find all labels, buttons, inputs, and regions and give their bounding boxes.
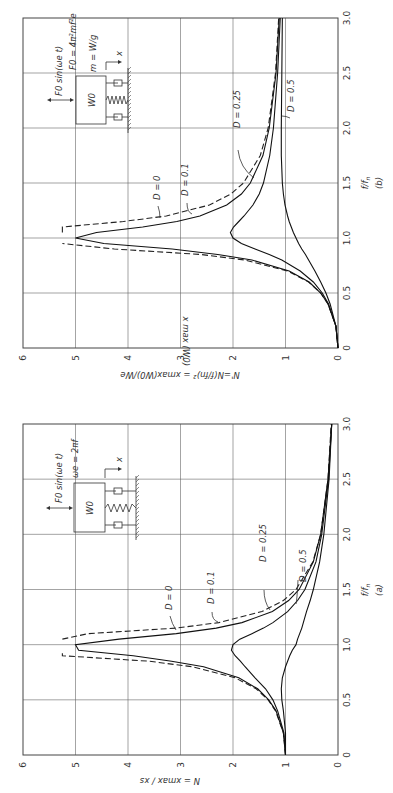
x-tick-label: 2.5 [342,66,352,80]
x-tick-label: 2.5 [342,472,352,486]
annotation-b-d025: D = 0.25 [232,90,242,128]
y-axis-label-a: N = xmax / xs [139,776,200,786]
y-tick-label: 5 [71,762,81,768]
force-equation-b: F0 = 4π²mf²e [68,13,78,70]
x-tick-label: 0 [342,752,352,758]
force-equation-a: ωe = 2πf [70,438,80,478]
chart-panel-a: 012345600.51.01.52.02.53.0 f/fn (a) N = … [18,417,384,786]
y-tick-label: 2 [228,355,238,361]
panel-label-b: (b) [374,177,384,189]
x-tick-label: 1.5 [342,176,352,190]
annotation-a-d025: D = 0.25 [258,524,268,562]
annotation-b-d01: D = 0.1 [180,163,190,196]
series-d0 [62,244,338,349]
x-axis-label-b: f/fn [360,176,371,189]
ground-hatch-a [136,475,139,538]
x-tick-label: 1.0 [342,637,352,652]
y-tick-label: 6 [18,355,28,361]
x-axis-label-a: f/fn [360,583,371,596]
displacement-label-b: x [114,50,124,57]
y-axis-label-b-text: N'=N(f/fn)² = xmax(W0)/We [120,370,239,380]
x-tick-label: 0 [342,345,352,351]
chart-panel-b: 012345600.51.01.52.02.53.0 f/fn (b) x ma… [18,11,384,380]
annotation-a-d0: D = 0 [164,586,174,610]
y-tick-label: 6 [18,762,28,768]
y-tick-label: 2 [228,762,238,768]
y-tick-label: 5 [71,355,81,361]
series-d0 [62,650,285,755]
mass-label-b: W0 [87,93,97,107]
y-tick-label: 0 [333,355,343,361]
y-tick-label: 1 [281,762,291,768]
x-tick-label: 3.0 [342,417,352,432]
x-tick-label: 0.5 [342,286,352,300]
force-label-b: F0 sin(ωe t) [54,46,64,96]
y-tick-label: 4 [123,762,133,768]
y-tick-label: 0 [333,762,343,768]
x-tick-label: 0.5 [342,693,352,707]
annotation-a-d05: D = 0.5 [298,549,308,582]
y-axis-label-b: x max (W0) [181,316,191,366]
tick-labels-a: 012345600.51.01.52.02.53.0 [18,417,352,768]
annotations-a: D = 0 D = 0.1 D = 0.25 D = 0.5 [164,524,308,630]
mass-equation-b: m = W/g [88,34,98,72]
y-tick-label: 1 [281,355,291,361]
spring-icon-a [105,504,136,512]
x-tick-label: 2.0 [342,121,352,136]
annotation-b-d0: D = 0 [152,176,162,200]
mass-label-a: W0 [85,501,95,515]
series-d0 [62,424,331,639]
ground-hatch-b [128,67,131,130]
x-tick-label: 1.0 [342,231,352,246]
spring-icon-b [106,96,128,104]
panel-label-a: (a) [374,584,384,596]
x-tick-label: 3.0 [342,11,352,26]
figure-canvas: 012345600.51.01.52.02.53.0 f/fn (b) x ma… [0,0,393,793]
spring-mass-diagram-a: W0 x F0 sin(ωe t) ωe = 2πf [46,438,139,540]
x-tick-label: 1.5 [342,582,352,596]
annotation-b-d05: D = 0.5 [286,79,296,112]
displacement-label-a: x [114,456,124,463]
y-tick-label: 3 [176,762,186,768]
svg-text:x max (W0): x max (W0) [181,316,191,366]
annotation-a-d01: D = 0.1 [206,571,216,604]
x-tick-label: 2.0 [342,527,352,542]
force-label-a: F0 sin(ωe t) [54,453,64,503]
y-tick-label: 4 [123,355,133,361]
